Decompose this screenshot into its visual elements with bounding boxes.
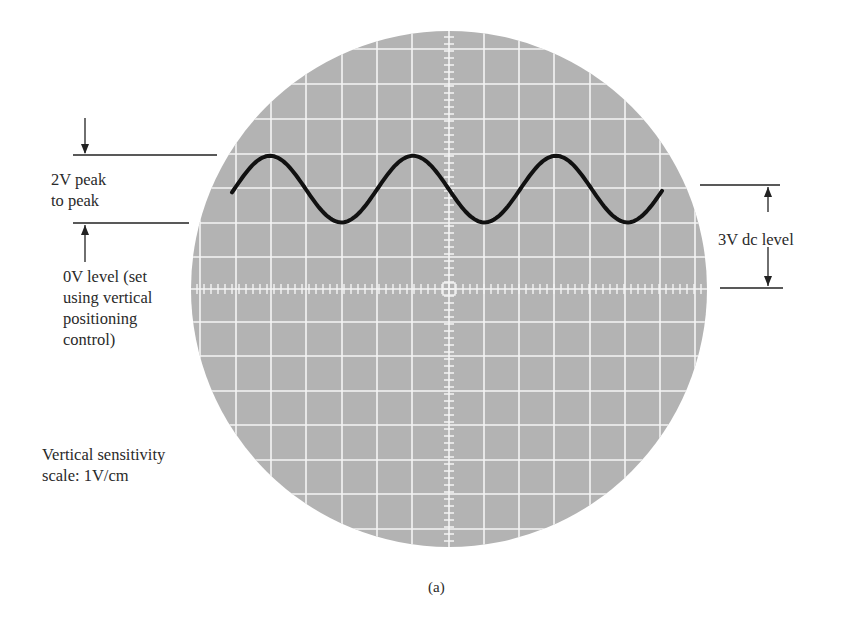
dc-level-label: 3V dc level [718,229,794,250]
figure-caption: (a) [428,577,445,598]
vertical-sensitivity-label: Vertical sensitivity scale: 1V/cm [42,444,165,486]
zero-level-label: 0V level (set using vertical positioning… [63,266,152,350]
peak-to-peak-label: 2V peak to peak [51,169,106,211]
